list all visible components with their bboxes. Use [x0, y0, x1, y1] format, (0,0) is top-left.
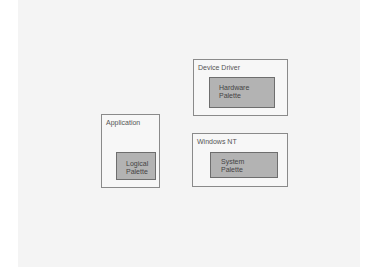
logical-palette-line-2: Palette — [126, 168, 155, 176]
system-palette-box: System Palette — [210, 152, 278, 178]
device-driver-box: Device Driver Hardware Palette — [193, 59, 288, 116]
application-box: Application Logical Palette — [101, 114, 160, 188]
system-palette-line-1: System — [221, 158, 277, 166]
device-driver-label: Device Driver — [198, 64, 240, 71]
application-label: Application — [106, 119, 140, 126]
diagram-canvas — [18, 0, 360, 267]
windows-nt-label: Windows NT — [197, 138, 237, 145]
logical-palette-box: Logical Palette — [116, 152, 156, 180]
hardware-palette-line-2: Palette — [219, 92, 274, 100]
logical-palette-line-1: Logical — [126, 160, 155, 168]
windows-nt-box: Windows NT System Palette — [192, 133, 288, 187]
hardware-palette-box: Hardware Palette — [209, 77, 275, 108]
system-palette-line-2: Palette — [221, 166, 277, 174]
hardware-palette-line-1: Hardware — [219, 84, 274, 92]
